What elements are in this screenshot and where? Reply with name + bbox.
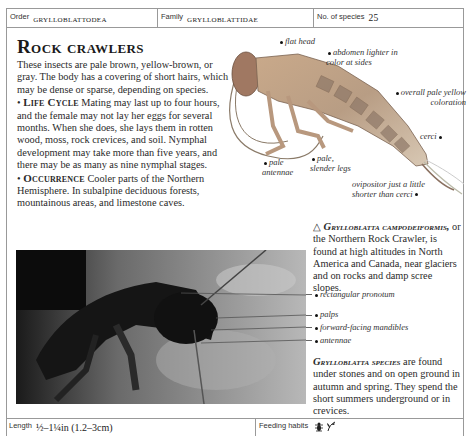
pointer-dot [315,294,318,297]
feeding-label: Feeding habits [259,421,308,430]
leader-line [306,327,312,328]
pointer-dot [315,327,318,330]
annotation-palps: palps [313,309,338,319]
order-value: Grylloblattodea [33,13,107,24]
page-title: Rock crawlers [17,36,144,58]
pointer-dot [439,136,442,139]
plant-icon [326,421,336,434]
annotation-cerci: cerci [420,132,444,142]
feeding-cell: Feeding habits [256,419,464,436]
pointer-dot [328,52,331,55]
occurrence-heading: Occurrence [23,172,85,184]
species-count-value: 25 [369,13,379,23]
family-value: Grylloblattidae [187,13,258,24]
pointer-dot [264,162,267,165]
pointer-dot [312,158,315,161]
length-cell: Length ½–1¼in (1.2–3cm) [6,419,256,436]
insect-photo [16,250,306,404]
annotation-legs: pale, slender legs [310,154,360,173]
species-name: Grylloblatta campodeiformis, [324,221,450,232]
annotation-antennae: pale antennae [262,158,302,177]
classification-bar: Order Grylloblattodea Family Grylloblatt… [6,8,464,28]
length-value: ½–1¼in (1.2–3cm) [36,422,113,433]
order-cell: Order Grylloblattodea [7,9,158,27]
occurrence-paragraph: • Occurrence Cooler parts of the Norther… [17,172,232,210]
pointer-dot [396,92,399,95]
intro-text: These insects are pale brown, yellow-bro… [17,59,232,96]
rock-crawler-photo [16,250,306,404]
description: These insects are pale brown, yellow-bro… [17,59,232,210]
life-cycle-paragraph: • Life Cycle Mating may last up to four … [17,96,232,171]
annotation-mandibles: forward-facing mandibles [313,322,408,332]
species-count-cell: No. of species 25 [314,9,463,27]
footer-bar: Length ½–1¼in (1.2–3cm) Feeding habits [6,418,464,436]
life-cycle-heading: Life Cycle [23,96,79,108]
annotation-flat-head: flat head [278,37,315,47]
species-count-label: No. of species [317,12,365,21]
pointer-dot [315,314,318,317]
leader-line [306,294,312,295]
genus-note: Grylloblatta species are found under sto… [313,356,463,417]
annotation-pronotum: rectangular pronotum [313,289,395,299]
species-note: △ Grylloblatta campodeiformis, or the No… [313,221,461,295]
family-label: Family [161,12,183,21]
leader-line [306,315,312,316]
triangle-icon: △ [313,221,321,232]
insect-illustration: flat head abdomen lighter in color at si… [228,36,464,216]
pointer-dot [315,340,318,343]
order-label: Order [10,12,29,21]
pointer-dot [280,41,283,44]
pointer-dot [415,193,418,196]
genus-name: Grylloblatta species [313,356,401,367]
insect-icon [314,421,324,434]
annotation-photo-antennae: antennae [313,335,351,345]
annotation-abdomen: abdomen lighter in color at sides [326,48,416,67]
family-cell: Family Grylloblattidae [158,9,314,27]
length-label: Length [9,421,32,430]
annotation-ovipositor: ovipositor just a little shorter than ce… [352,180,438,199]
annotation-coloration: overall pale yellow coloration [386,88,466,107]
leader-line [306,340,312,341]
